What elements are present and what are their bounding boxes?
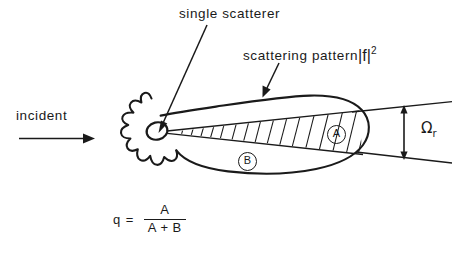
- single-scatterer-leader-line-icon: [159, 25, 208, 133]
- region-a-badge: A: [327, 125, 346, 144]
- incident-label: incident: [16, 108, 67, 123]
- omega-symbol: Ω: [421, 119, 432, 137]
- star-blob-shape: [121, 93, 177, 165]
- quality-factor-equation: q = A A + B: [113, 203, 186, 235]
- scattering-pattern-text: scattering pattern: [243, 48, 358, 63]
- single-scatterer-label: single scatterer: [179, 6, 280, 21]
- equation-lhs: q: [113, 212, 121, 227]
- equation-numerator: A: [153, 203, 176, 219]
- scattering-diagram-figure: single scatterer scattering pattern|f|2 …: [0, 0, 463, 253]
- equation-denominator: A + B: [144, 220, 186, 236]
- scattering-pattern-exponent: 2: [371, 45, 377, 56]
- scattering-pattern-leader-line-icon: [263, 63, 280, 98]
- scattering-pattern-modulus: |f|: [358, 47, 371, 64]
- diagram-canvas: [0, 0, 463, 253]
- equation-equals-sign: =: [126, 212, 134, 227]
- region-b-badge: B: [238, 152, 257, 171]
- scattering-pattern-label: scattering pattern|f|2: [243, 45, 376, 64]
- omega-r-label: Ωr: [421, 119, 437, 139]
- omega-extent-arrow-icon: [400, 105, 407, 160]
- omega-subscript: r: [432, 128, 436, 139]
- incident-arrow-icon: [19, 134, 95, 144]
- equation-fraction: A A + B: [144, 203, 186, 235]
